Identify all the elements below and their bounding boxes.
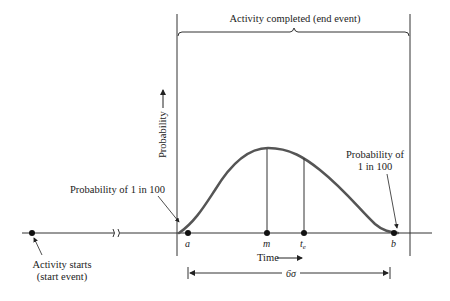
pert-beta-distribution-diagram: Activity completed (end event) Probabili… xyxy=(0,0,450,301)
label-m: m xyxy=(263,238,270,249)
right-annotation-line1: Probability of xyxy=(346,149,405,160)
right-annotation-line2: 1 in 100 xyxy=(358,161,392,172)
x-axis-label: Time xyxy=(257,252,279,263)
label-b: b xyxy=(391,238,396,249)
point-m xyxy=(264,230,270,236)
point-b xyxy=(391,230,397,236)
start-label-line2: (start event) xyxy=(37,271,88,283)
right-annotation-arrow-icon xyxy=(387,174,397,228)
point-a xyxy=(185,230,191,236)
diagram-title: Activity completed (end event) xyxy=(230,13,361,25)
label-a: a xyxy=(185,238,190,249)
left-annotation: Probability of 1 in 100 xyxy=(70,184,165,195)
start-annotation-arrow-icon xyxy=(34,238,42,255)
start-label-line1: Activity starts xyxy=(32,259,91,270)
span-label: 6σ xyxy=(286,268,297,279)
start-event-point xyxy=(29,230,35,236)
label-te: te xyxy=(300,238,306,251)
top-brace xyxy=(178,28,409,36)
y-axis-label: Probability xyxy=(157,111,168,158)
point-te xyxy=(301,230,307,236)
left-annotation-arrow-icon xyxy=(158,196,179,222)
